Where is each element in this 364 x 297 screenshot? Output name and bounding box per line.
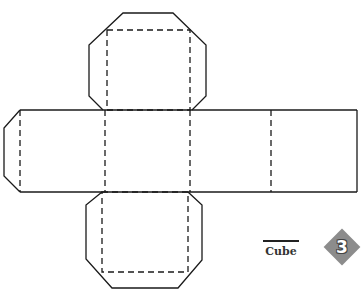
number-badge: 3 — [324, 229, 360, 265]
top-face-fold — [107, 30, 190, 110]
badge-number: 3 — [324, 229, 360, 265]
bottom-flap-outline — [86, 192, 202, 288]
label-overline — [263, 240, 299, 242]
figure-title: Cube — [261, 245, 301, 258]
figure-label: Cube — [261, 240, 301, 258]
bottom-face-fold — [102, 192, 188, 272]
left-flap-outline — [4, 110, 20, 192]
cube-net-diagram — [0, 0, 364, 297]
